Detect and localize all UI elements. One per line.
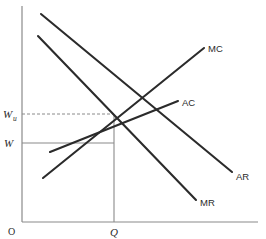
origin-label: O	[8, 226, 15, 237]
economics-diagram-figure: MC AC AR MR W u W O Q	[0, 0, 266, 239]
ac-curve-label: AC	[182, 97, 195, 108]
average-revenue-curve	[41, 14, 232, 172]
guidelines-group	[22, 114, 114, 222]
competitive-wage-label: W	[4, 137, 14, 149]
quantity-tick-label: Q	[110, 226, 118, 238]
axis-labels-group: W u W O Q	[3, 108, 118, 238]
union-wage-label: W	[3, 108, 13, 120]
curve-labels-group: MC AC AR MR	[182, 43, 249, 208]
diagram-canvas: MC AC AR MR W u W O Q	[0, 0, 266, 239]
ar-curve-label: AR	[236, 171, 249, 182]
mr-curve-label: MR	[200, 197, 215, 208]
curves-group	[38, 14, 232, 200]
union-wage-label-subscript: u	[13, 114, 17, 123]
mc-curve-label: MC	[208, 43, 223, 54]
